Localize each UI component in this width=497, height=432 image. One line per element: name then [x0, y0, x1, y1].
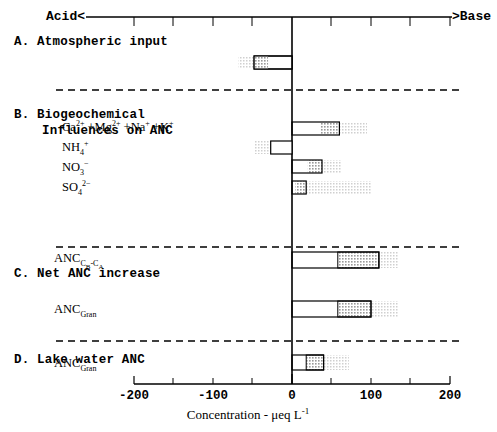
bar-base-cations — [292, 122, 367, 135]
x-axis-title-exponent: -1 — [302, 406, 310, 416]
base-direction-label: >Base — [452, 10, 491, 23]
row-label-anc-gran-net: ANCGran — [54, 303, 96, 316]
bar-sulfate — [292, 181, 371, 194]
row-label-ammonium: NH4+ — [62, 141, 89, 154]
row-label-base-cations: Ca2+ +Mg2+ +Na+ +K+ — [62, 121, 173, 134]
xtick-label-zero: 0 — [288, 390, 296, 403]
xtick-label-200: 200 — [439, 390, 462, 403]
bar-nitrate — [292, 160, 341, 173]
row-label-anc-gran-lake: ANCGran — [54, 357, 96, 370]
bar-anc-gran-lake — [292, 355, 349, 370]
x-axis-title: Concentration - μeq L-1 — [187, 408, 309, 421]
section-a-title: A. Atmospheric input — [14, 36, 168, 49]
row-label-anc-cb-ca: ANCCB-CA — [54, 252, 103, 266]
bottom-axis — [134, 374, 450, 384]
row-label-sulfate: SO42− — [62, 181, 91, 194]
bar-anc-cb-ca — [292, 252, 399, 268]
x-axis-title-main: Concentration - μeq L — [187, 407, 302, 422]
bar-ammonium — [254, 141, 292, 154]
figure-canvas: Acid< >Base A. Atmospheric input B. Biog… — [0, 0, 497, 432]
xtick-label-neg100: -100 — [198, 390, 228, 403]
bar-atmospheric-input — [238, 56, 292, 69]
acid-direction-label: Acid< — [46, 10, 85, 23]
bar-anc-gran-net — [292, 301, 399, 317]
row-label-nitrate: NO3− — [62, 161, 89, 174]
top-axis — [86, 17, 452, 26]
xtick-label-neg200: -200 — [119, 390, 149, 403]
xtick-label-100: 100 — [360, 390, 383, 403]
